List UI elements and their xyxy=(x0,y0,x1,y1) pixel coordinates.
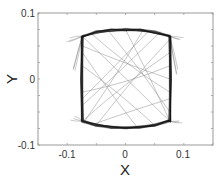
y-tick-labels: 0.1 0 -0.1 xyxy=(18,8,36,151)
trajectory-chord xyxy=(91,99,170,125)
plot-frame xyxy=(38,13,213,145)
x-tick-label: -0.1 xyxy=(58,149,76,160)
plot-area xyxy=(66,28,183,129)
trajectory-loop xyxy=(81,29,170,128)
y-axis-label: Y xyxy=(3,74,20,84)
trajectory-loop xyxy=(83,29,171,128)
trajectory-chord xyxy=(85,30,143,121)
x-tick-label: 0 xyxy=(122,149,128,160)
trajectory-chord xyxy=(82,31,148,99)
y-tick-label: -0.1 xyxy=(18,140,36,151)
axis-ticks xyxy=(38,13,213,145)
trajectory-chord xyxy=(126,30,170,122)
trajectory-chord xyxy=(82,53,169,122)
x-tick-labels: -0.1 0 0.1 xyxy=(58,149,190,160)
x-axis-label: X xyxy=(120,161,130,178)
x-tick-label: 0.1 xyxy=(176,149,190,160)
trajectory-chord xyxy=(108,30,170,112)
trajectory-chord xyxy=(82,36,169,121)
trajectory-chord xyxy=(82,53,137,128)
y-tick-label: 0 xyxy=(29,74,35,85)
trajectory-overshoot xyxy=(69,36,82,42)
trajectory-loop xyxy=(81,29,171,128)
phase-plane-chart: -0.1 0 0.1 0.1 0 -0.1 X Y xyxy=(0,0,218,188)
trajectory-loop xyxy=(81,30,170,129)
y-tick-label: 0.1 xyxy=(21,8,35,19)
